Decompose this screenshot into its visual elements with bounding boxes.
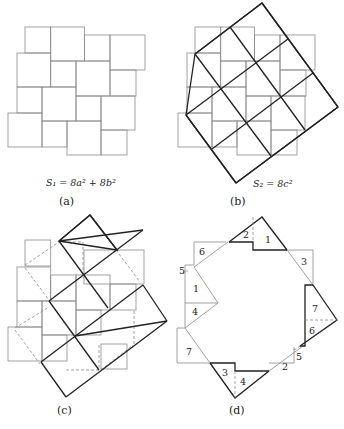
panel-b-caption: (b) <box>230 195 246 208</box>
piece-label-1-top: 1 <box>265 234 271 245</box>
piece-label-5-right: 5 <box>296 351 302 362</box>
piece-label-4-bottom: 4 <box>240 376 246 387</box>
piece-label-3-right: 3 <box>301 256 307 267</box>
panel-b-tiling <box>178 27 315 155</box>
piece-label-4-left: 4 <box>192 306 198 317</box>
panel-c-caption: (c) <box>57 404 72 417</box>
piece-label-5-left: 5 <box>179 265 185 276</box>
panel-a-tiling <box>8 27 145 155</box>
figure-canvas: S₁ = 8a² + 8b² (a) S₂ = 8c² (b) <box>0 0 344 429</box>
panel-c-tiling <box>8 240 144 369</box>
piece-label-2-top: 2 <box>243 229 249 240</box>
piece-label-3-bottom: 3 <box>222 367 228 378</box>
panel-a-caption: (a) <box>59 195 74 208</box>
panel-c-rotated-grid <box>41 215 167 397</box>
panel-d-caption: (d) <box>229 404 245 417</box>
panel-b-rotated-grid <box>186 3 338 183</box>
piece-label-1-left: 1 <box>193 283 199 294</box>
piece-label-6-left: 6 <box>199 246 205 257</box>
piece-label-2-bottom: 2 <box>282 361 288 372</box>
piece-label-7-right: 7 <box>312 303 318 314</box>
piece-label-6-right: 6 <box>309 325 315 336</box>
panel-b-formula: S₂ = 8c² <box>253 178 293 189</box>
panel-c-dashed-lines <box>15 242 140 370</box>
piece-label-7-left: 7 <box>186 346 192 357</box>
panel-a-formula: S₁ = 8a² + 8b² <box>46 177 116 188</box>
